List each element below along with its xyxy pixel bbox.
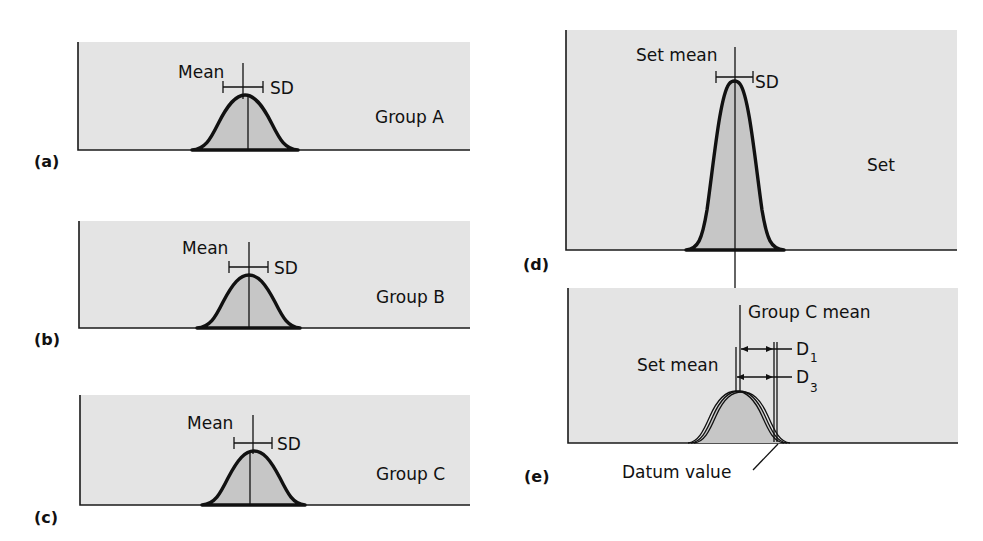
panel-a-label: (a) <box>34 152 59 171</box>
panel-d-set-label: Set <box>867 155 895 175</box>
panel-a-sd-label: SD <box>270 78 294 98</box>
panel-b-sd-label: SD <box>274 258 298 278</box>
panel-b-group-label: Group B <box>376 287 445 307</box>
panel-b-label: (b) <box>34 330 60 349</box>
panel-b-mean-label: Mean <box>182 238 228 258</box>
panel-a: Mean SD Group A (a) <box>34 42 470 171</box>
distribution-figure: Mean SD Group A (a) Mean SD Group B (b) … <box>0 0 983 541</box>
svg-text:D: D <box>796 367 809 387</box>
panel-c-group-label: Group C <box>376 464 445 484</box>
panel-a-mean-label: Mean <box>178 62 224 82</box>
group-c-mean-label: Group C mean <box>748 302 871 322</box>
panel-d-label: (d) <box>523 255 549 274</box>
panel-d-set-mean-label: Set mean <box>636 45 718 65</box>
panel-e-label: (e) <box>524 467 549 486</box>
panel-b: Mean SD Group B (b) <box>34 221 470 349</box>
panel-e: Group C mean Set mean D 1 D 3 Datum valu… <box>524 288 958 486</box>
svg-text:3: 3 <box>810 381 818 395</box>
panel-d-sd-label: SD <box>755 72 779 92</box>
panel-c-sd-label: SD <box>277 434 301 454</box>
datum-value-label: Datum value <box>622 462 731 482</box>
datum-value-leader <box>753 444 778 470</box>
svg-text:1: 1 <box>810 351 818 365</box>
panel-e-set-mean-label: Set mean <box>637 355 719 375</box>
panel-c-label: (c) <box>34 508 58 527</box>
panel-c-mean-label: Mean <box>187 413 233 433</box>
panel-a-group-label: Group A <box>375 107 444 127</box>
panel-c: Mean SD Group C (c) <box>34 395 470 527</box>
svg-text:D: D <box>796 339 809 359</box>
